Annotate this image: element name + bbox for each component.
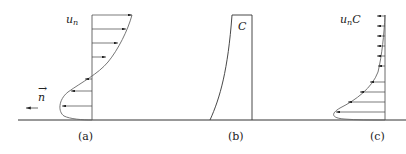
caption-a: (a) xyxy=(78,130,93,143)
normal-vector-mark: → xyxy=(38,82,47,95)
panel-a: n → un (a) xyxy=(26,13,132,143)
diagram-canvas: n → un (a) C (b) unC (c) xyxy=(0,0,406,154)
caption-c: (c) xyxy=(370,130,385,143)
velocity-profile-a xyxy=(60,15,132,120)
panel-b: C (b) xyxy=(210,15,252,143)
panel-c: unC (c) xyxy=(334,13,385,143)
caption-b: (b) xyxy=(228,130,244,143)
variable-label-a: un xyxy=(66,13,78,27)
variable-label-c: unC xyxy=(340,13,361,27)
variable-label-b: C xyxy=(238,20,247,33)
flux-profile-c xyxy=(334,15,385,120)
